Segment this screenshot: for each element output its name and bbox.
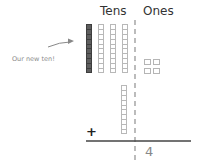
ones-header: Ones: [143, 4, 174, 18]
one-cube: [144, 68, 151, 74]
plus-sign: +: [86, 126, 97, 138]
addend-ten-rod: [121, 85, 127, 134]
arrow-right-icon: [48, 42, 70, 47]
ten-rod: [122, 24, 128, 73]
one-cube: [153, 59, 160, 65]
new-ten-label: Our new ten!: [12, 55, 55, 63]
unit-block: [110, 68, 116, 73]
result-ones-digit: 4: [145, 145, 153, 159]
ten-rod: [98, 24, 104, 73]
unit-block: [98, 68, 104, 73]
unit-block: [122, 68, 128, 73]
one-cube: [153, 68, 160, 74]
ten-rod: [110, 24, 116, 73]
unit-block: [121, 129, 127, 134]
new-ten-rod: [86, 24, 92, 73]
unit-block: [86, 68, 92, 73]
one-cube: [144, 59, 151, 65]
tens-header: Tens: [100, 4, 127, 18]
